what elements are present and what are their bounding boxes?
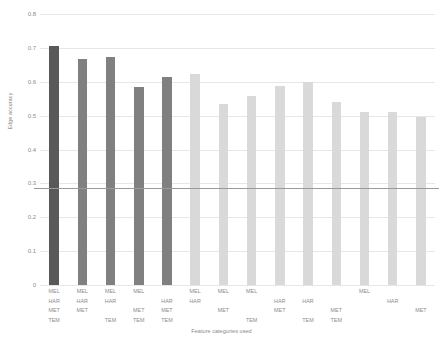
x-label-har: HAR <box>153 297 181 307</box>
x-label-column: MELHARMETTEM <box>40 287 68 325</box>
y-axis-tick-label: 0.3 <box>28 180 36 186</box>
bar[interactable] <box>219 104 229 285</box>
x-label-mel: MEL <box>40 287 68 297</box>
x-label-met: MET <box>407 306 435 316</box>
reference-line <box>34 188 439 189</box>
y-axis-tick-label: 0.4 <box>28 147 36 153</box>
x-label-met: MET <box>40 306 68 316</box>
bar[interactable] <box>134 87 144 285</box>
x-label-mel: MEL <box>350 287 378 297</box>
x-label-tem: TEM <box>125 316 153 326</box>
x-label-tem: TEM <box>40 316 68 326</box>
x-label-column: MELHARMETTEM <box>350 287 378 325</box>
x-label-har: HAR <box>294 297 322 307</box>
y-axis-title: Edge accuracy <box>7 75 13 147</box>
gridline <box>40 285 435 286</box>
x-label-column: MELHARMETTEM <box>96 287 124 325</box>
y-axis-tick-label: 0.6 <box>28 79 36 85</box>
x-label-met: MET <box>322 306 350 316</box>
x-label-tem: TEM <box>96 316 124 326</box>
x-label-column: MELHARMETTEM <box>153 287 181 325</box>
x-label-met: MET <box>68 306 96 316</box>
x-label-har: HAR <box>40 297 68 307</box>
x-label-har: HAR <box>96 297 124 307</box>
x-label-column: MELHARMETTEM <box>294 287 322 325</box>
x-label-mel: MEL <box>238 287 266 297</box>
bar[interactable] <box>303 82 313 285</box>
x-label-column: MELHARMETTEM <box>125 287 153 325</box>
bar-chart: Edge accuracy 00.10.20.30.40.50.60.70.8 … <box>0 0 443 348</box>
bar[interactable] <box>162 77 172 285</box>
y-axis-tick-label: 0.5 <box>28 113 36 119</box>
y-axis-tick-label: 0 <box>33 282 36 288</box>
x-label-tem: TEM <box>238 316 266 326</box>
x-label-column: MELHARMETTEM <box>266 287 294 325</box>
bar[interactable] <box>388 112 398 285</box>
y-axis-tick-label: 0.2 <box>28 214 36 220</box>
x-label-mel: MEL <box>125 287 153 297</box>
x-label-column: MELHARMETTEM <box>238 287 266 325</box>
x-label-tem: TEM <box>294 316 322 326</box>
bar[interactable] <box>190 74 200 285</box>
x-label-har: HAR <box>266 297 294 307</box>
bar[interactable] <box>247 96 257 285</box>
x-label-har: HAR <box>181 297 209 307</box>
x-label-tem: TEM <box>322 316 350 326</box>
x-label-column: MELHARMETTEM <box>407 287 435 325</box>
x-label-column: MELHARMETTEM <box>209 287 237 325</box>
x-label-mel: MEL <box>96 287 124 297</box>
x-label-met: MET <box>209 306 237 316</box>
y-axis-tick-label: 0.1 <box>28 248 36 254</box>
y-axis-tick-label: 0.7 <box>28 45 36 51</box>
bar[interactable] <box>360 112 370 285</box>
x-label-column: MELHARMETTEM <box>68 287 96 325</box>
bar[interactable] <box>275 86 285 285</box>
x-label-met: MET <box>125 306 153 316</box>
x-label-mel: MEL <box>209 287 237 297</box>
x-label-har: HAR <box>68 297 96 307</box>
x-label-mel: MEL <box>181 287 209 297</box>
x-label-mel: MEL <box>68 287 96 297</box>
x-label-column: MELHARMETTEM <box>181 287 209 325</box>
bar[interactable] <box>416 117 426 285</box>
x-label-har: HAR <box>379 297 407 307</box>
x-label-met: MET <box>266 306 294 316</box>
x-label-met: MET <box>153 306 181 316</box>
bar[interactable] <box>49 46 59 285</box>
plot-area: 00.10.20.30.40.50.60.70.8 <box>40 14 435 285</box>
bar[interactable] <box>78 59 88 285</box>
bar[interactable] <box>106 57 116 285</box>
bar[interactable] <box>332 102 342 285</box>
x-axis-title: Feature categories used <box>0 328 443 334</box>
bar-series <box>40 14 435 285</box>
y-axis-tick-label: 0.8 <box>28 11 36 17</box>
x-label-column: MELHARMETTEM <box>322 287 350 325</box>
x-label-tem: TEM <box>153 316 181 326</box>
x-axis-category-labels: MELHARMETTEMMELHARMETTEMMELHARMETTEMMELH… <box>40 287 435 331</box>
x-label-column: MELHARMETTEM <box>379 287 407 325</box>
